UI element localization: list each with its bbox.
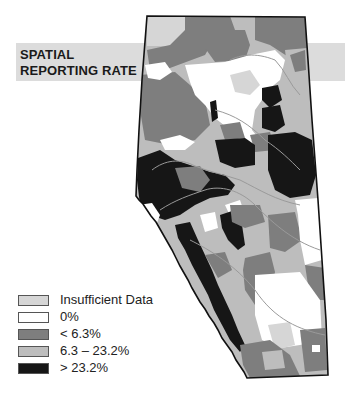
legend-item-zero: 0% [18,309,153,325]
legend-label: 0% [60,309,79,325]
legend-item-insufficient: Insufficient Data [18,292,153,308]
map-legend: Insufficient Data 0% < 6.3% 6.3 – 23.2% … [18,292,153,377]
legend-label: 6.3 – 23.2% [60,343,129,359]
legend-item-low: < 6.3% [18,326,153,342]
legend-swatch-zero [18,312,49,323]
legend-swatch-mid [18,346,49,357]
legend-item-high: > 23.2% [18,360,153,376]
legend-swatch-insufficient [18,295,49,306]
legend-swatch-high [18,363,49,374]
legend-label: > 23.2% [60,360,108,376]
legend-item-mid: 6.3 – 23.2% [18,343,153,359]
reporting-regions [130,10,335,385]
legend-swatch-low [18,329,49,340]
legend-label: < 6.3% [60,326,101,342]
legend-label: Insufficient Data [60,292,153,308]
